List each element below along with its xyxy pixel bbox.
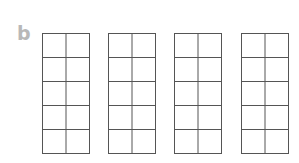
ten-frame-grid [241, 33, 289, 154]
part-label: b [17, 24, 31, 43]
ten-frame-3 [174, 33, 221, 153]
ten-frame-grid [42, 33, 90, 154]
ten-frame-grid [174, 33, 222, 154]
ten-frame-4 [241, 33, 288, 153]
ten-frame-1 [42, 33, 89, 153]
ten-frame-2 [108, 33, 155, 153]
ten-frame-grid [108, 33, 156, 154]
